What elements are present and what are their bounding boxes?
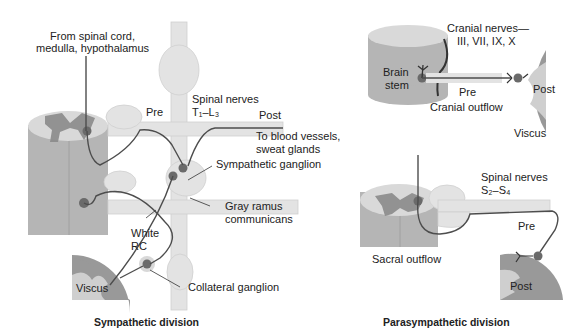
label-pre-sacral: Pre	[518, 220, 535, 232]
label-white: White	[131, 227, 159, 239]
label-cranial-list: III, VII, IX, X	[457, 35, 516, 47]
label-from-spinal-cord: From spinal cord, medulla, hypothalamus	[36, 30, 149, 54]
spinal-cord-sacral	[360, 184, 438, 247]
label-sympathetic-ganglion: Sympathetic ganglion	[216, 158, 321, 170]
parasympathetic-title: Parasympathetic division	[383, 316, 510, 328]
label-gray-ramus: Gray ramus	[225, 200, 282, 212]
label-line: From spinal cord,	[36, 30, 149, 42]
label-spinal-nerves-sacral: Spinal nerves	[481, 171, 548, 183]
label-spinal-range: T₁–L₃	[192, 106, 219, 118]
label-cranial-outflow: Cranial outflow	[430, 101, 503, 113]
label-to-blood: To blood vessels,	[256, 130, 340, 142]
label-sacral-range: S₂–S₄	[481, 184, 511, 196]
label-viscus-cranial: Viscus	[514, 127, 546, 139]
label-sweat-glands: sweat glands	[256, 143, 320, 155]
label-communicans: communicans	[225, 213, 293, 225]
label-sacral-outflow: Sacral outflow	[372, 253, 441, 265]
label-stem: stem	[385, 79, 409, 91]
label-spinal-nerves: Spinal nerves	[192, 93, 259, 105]
brain-stem	[368, 25, 448, 105]
label-post-sacral: Post	[510, 280, 532, 292]
label-brain: Brain	[383, 66, 409, 78]
label-line: medulla, hypothalamus	[36, 42, 149, 54]
label-cranial-nerves: Cranial nerves—	[447, 22, 529, 34]
spinal-cord-sympathetic	[28, 111, 108, 235]
label-collateral-ganglion: Collateral ganglion	[188, 281, 279, 293]
sympathetic-title: Sympathetic division	[94, 316, 199, 328]
label-pre-cranial: Pre	[459, 86, 476, 98]
label-viscus-sympathetic: Viscus	[76, 282, 108, 294]
label-post-cranial: Post	[533, 83, 555, 95]
viscus-sacral	[500, 252, 563, 301]
label-rc: RC	[131, 240, 147, 252]
label-pre: Pre	[146, 106, 163, 118]
label-post: Post	[259, 109, 281, 121]
